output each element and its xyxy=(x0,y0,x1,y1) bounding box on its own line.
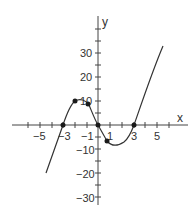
y-tick-label-p20: 20 xyxy=(80,71,92,83)
x-tick-label-m1: −1 xyxy=(81,130,94,142)
point-3-0 xyxy=(132,123,137,128)
y-tick-label-m20: −20 xyxy=(76,168,95,180)
x-tick-label-m3: −3 xyxy=(58,130,71,142)
point-neg3-0 xyxy=(61,123,66,128)
point-neg1-8 xyxy=(86,102,91,107)
function-curve xyxy=(46,46,163,173)
x-tick-label-m5: −5 xyxy=(33,130,46,142)
y-tick-label-p30: 30 xyxy=(80,47,92,59)
y-axis-label: y xyxy=(102,15,108,29)
y-tick-label-m30: −30 xyxy=(76,192,95,204)
y-tick-label-m10: −10 xyxy=(76,144,95,156)
point-neg2-10 xyxy=(73,99,78,104)
point-1-neg8 xyxy=(105,139,110,144)
x-axis-label: x xyxy=(177,111,183,125)
point-0-0 xyxy=(96,123,101,128)
chart: y x −5 −3 −1 1 3 5 30 20 10 −10 −20 −30 xyxy=(0,0,195,217)
x-tick-label-p5: 5 xyxy=(154,130,160,142)
x-tick-label-p3: 3 xyxy=(131,130,137,142)
